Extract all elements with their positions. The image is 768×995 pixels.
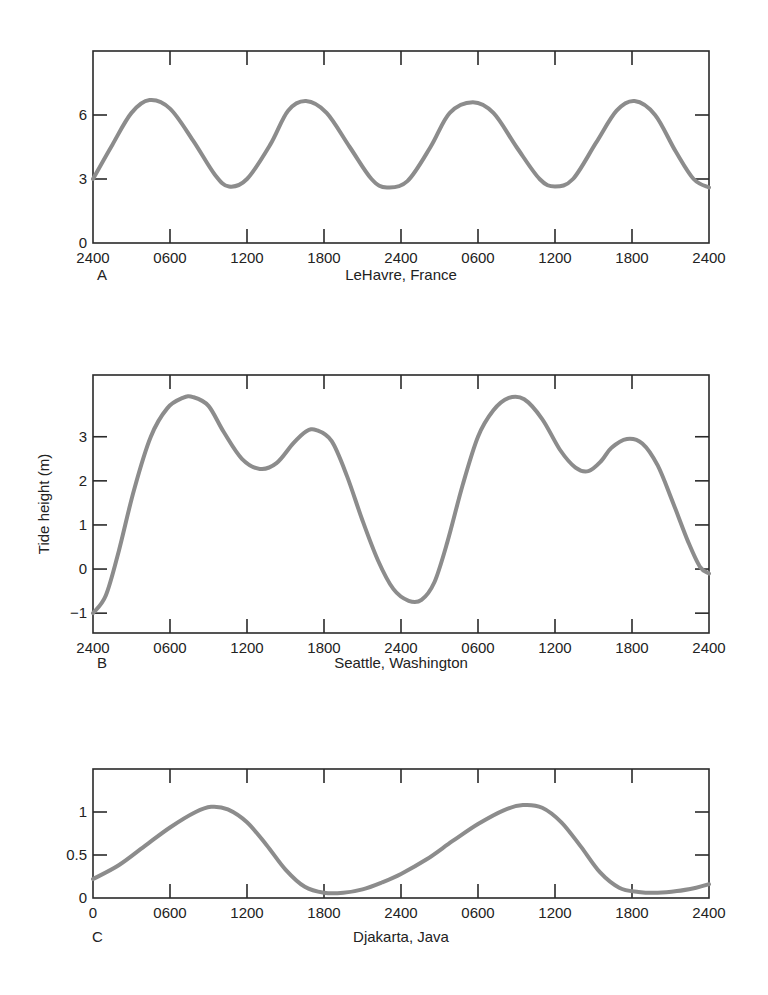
y-tick-label: 6 [79, 106, 87, 123]
x-tick-label: 2400 [384, 249, 417, 266]
panel-letter-b: B [97, 654, 107, 671]
x-tick-label: 1800 [307, 904, 340, 921]
chart-panel-b: 240006001200180024000600120018002400−101… [70, 375, 726, 656]
chart-panel-a: 240006001200180024000600120018002400036 [76, 51, 725, 266]
y-tick-label: 0.5 [66, 846, 87, 863]
x-tick-label: 0600 [153, 639, 186, 656]
x-tick-label: 1200 [230, 639, 263, 656]
x-tick-label: 0600 [153, 249, 186, 266]
chart-title-b: Seattle, Washington [334, 654, 468, 671]
y-tick-label: 1 [79, 803, 87, 820]
x-tick-label: 0600 [461, 904, 494, 921]
x-tick-label: 2400 [692, 904, 725, 921]
tide-figure: 240006001200180024000600120018002400036 … [0, 0, 768, 995]
y-tick-label: 0 [79, 889, 87, 906]
x-tick-label: 1800 [307, 249, 340, 266]
x-tick-label: 1800 [615, 904, 648, 921]
x-tick-label: 1200 [538, 249, 571, 266]
y-axis-label: Tide height (m) [35, 454, 52, 554]
tide-curve [93, 100, 709, 188]
x-tick-label: 0 [89, 904, 97, 921]
x-tick-label: 2400 [692, 249, 725, 266]
x-tick-label: 1800 [615, 249, 648, 266]
y-tick-label: 3 [79, 428, 87, 445]
x-tick-label: 1800 [615, 639, 648, 656]
chart-panel-c: 00600120018002400060012001800240000.51 [66, 769, 726, 921]
y-tick-label: 3 [79, 170, 87, 187]
x-tick-label: 2400 [76, 249, 109, 266]
x-tick-label: 1200 [538, 904, 571, 921]
y-tick-label: −1 [70, 604, 87, 621]
panel-letter-c: C [92, 928, 103, 945]
y-tick-label: 0 [79, 234, 87, 251]
y-tick-label: 2 [79, 472, 87, 489]
x-tick-label: 2400 [692, 639, 725, 656]
x-tick-label: 0600 [461, 249, 494, 266]
y-tick-label: 1 [79, 516, 87, 533]
x-tick-label: 1200 [538, 639, 571, 656]
plot-frame [93, 769, 709, 898]
x-tick-label: 0600 [153, 904, 186, 921]
x-tick-label: 2400 [384, 904, 417, 921]
x-tick-label: 1200 [230, 904, 263, 921]
tide-curve [93, 805, 709, 893]
chart-title-c: Djakarta, Java [353, 928, 450, 945]
x-tick-label: 1200 [230, 249, 263, 266]
chart-title-a: LeHavre, France [345, 266, 457, 283]
y-tick-label: 0 [79, 560, 87, 577]
tide-curve [93, 396, 709, 613]
plot-frame [93, 51, 709, 243]
panel-letter-a: A [97, 266, 107, 283]
